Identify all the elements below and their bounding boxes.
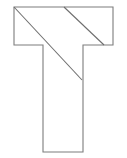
t-shape-figure	[0, 0, 127, 158]
figure-background	[0, 0, 127, 158]
